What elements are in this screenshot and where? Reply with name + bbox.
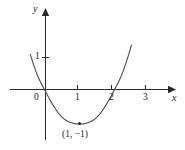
y-tick-label-1: 1 [35, 52, 40, 62]
x-tick-label-3: 3 [143, 93, 148, 103]
y-axis-group [42, 8, 49, 140]
y-axis-label: y [33, 4, 37, 14]
parabola-figure: y x 0 1 1 2 3 (1, −1) [0, 0, 185, 150]
origin-label: 0 [34, 93, 39, 103]
figure-canvas [0, 0, 185, 150]
x-tick-label-1: 1 [75, 93, 80, 103]
x-tick-label-2: 2 [109, 93, 114, 103]
vertex-point-marker [78, 122, 81, 125]
x-axis-ticks [78, 85, 146, 90]
vertex-coordinate-label: (1, −1) [62, 130, 88, 140]
x-axis-label: x [172, 93, 176, 103]
y-axis-arrow-icon [42, 8, 49, 16]
